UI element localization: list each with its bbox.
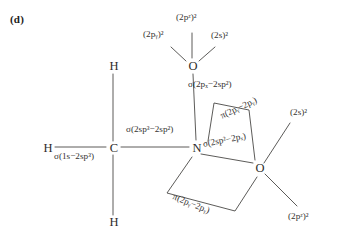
lone-pair-o-top-2py: (2pᵧ)²: [143, 30, 164, 39]
atom-oxygen-top: O: [186, 60, 200, 73]
panel-tag: (d): [10, 14, 24, 25]
atom-h-top: H: [107, 60, 121, 73]
figure-panel-d: (d) H H H C N O O (2pᵧ)² (2pᶻ)² (2s)² (2…: [0, 0, 339, 242]
stub-o-top-2s: [199, 47, 215, 61]
stub-o-right-2pz: [265, 174, 297, 206]
lone-pair-o-right-2s: (2s)²: [290, 108, 307, 117]
atom-h-bottom: H: [107, 216, 121, 229]
atom-h-left: H: [41, 142, 55, 155]
atom-oxygen-right: O: [253, 162, 267, 175]
bond-label-c-h-left: σ(1s−2sp³): [54, 152, 94, 161]
lone-pair-o-right-2pz: (2pᶻ)²: [288, 212, 309, 221]
bond-label-o-top-n: σ(2pₓ−2sp²): [188, 80, 232, 89]
atom-carbon: C: [107, 142, 121, 155]
lone-pair-o-top-2pz: (2pᶻ)²: [176, 13, 197, 22]
stub-o-right-2s: [264, 123, 290, 163]
stub-o-top-2py: [171, 47, 186, 61]
bond-n-o-right: [201, 154, 253, 163]
lone-pair-o-top-2s: (2s)²: [211, 31, 228, 40]
molecule-bond-diagram: [0, 0, 339, 242]
bond-label-c-n: σ(2sp³−2sp²): [126, 125, 173, 134]
